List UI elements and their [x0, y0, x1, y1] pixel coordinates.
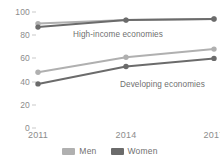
legend-label: Women: [128, 147, 158, 156]
y-tick-label: 40: [4, 77, 30, 86]
legend-label: Men: [79, 147, 96, 156]
y-tick-mark: [32, 35, 36, 36]
chart-legend: MenWomen: [0, 147, 220, 156]
data-point: [123, 64, 128, 69]
y-tick-mark: [32, 81, 36, 82]
x-tick-label-2017: 2017: [204, 130, 220, 140]
data-point: [35, 70, 40, 75]
data-point: [35, 24, 40, 29]
legend-swatch-icon: [111, 148, 124, 155]
y-tick-mark: [32, 12, 36, 13]
y-tick-label: 60: [4, 54, 30, 63]
y-tick-mark: [32, 58, 36, 59]
chart-container: 020406080100 201120142017 High-income ec…: [0, 0, 220, 167]
y-tick-mark: [32, 104, 36, 105]
annotation-high-income-economies: High-income economies: [73, 30, 163, 39]
data-point: [123, 55, 128, 60]
data-point: [211, 46, 216, 51]
legend-item-men[interactable]: Men: [62, 147, 96, 156]
data-point: [211, 56, 216, 61]
y-tick-label: 80: [4, 31, 30, 40]
legend-swatch-icon: [62, 148, 75, 155]
annotation-developing-economies: Developing economies: [120, 80, 205, 89]
y-tick-label: 100: [4, 8, 30, 17]
data-point: [35, 81, 40, 86]
data-point: [211, 16, 216, 21]
x-tick-label-2014: 2014: [116, 130, 137, 140]
y-tick-mark: [32, 128, 36, 129]
y-tick-label: 0: [4, 124, 30, 133]
data-point: [123, 17, 128, 22]
y-tick-label: 20: [4, 101, 30, 110]
legend-item-women[interactable]: Women: [111, 147, 158, 156]
x-tick-label-2011: 2011: [28, 130, 48, 140]
